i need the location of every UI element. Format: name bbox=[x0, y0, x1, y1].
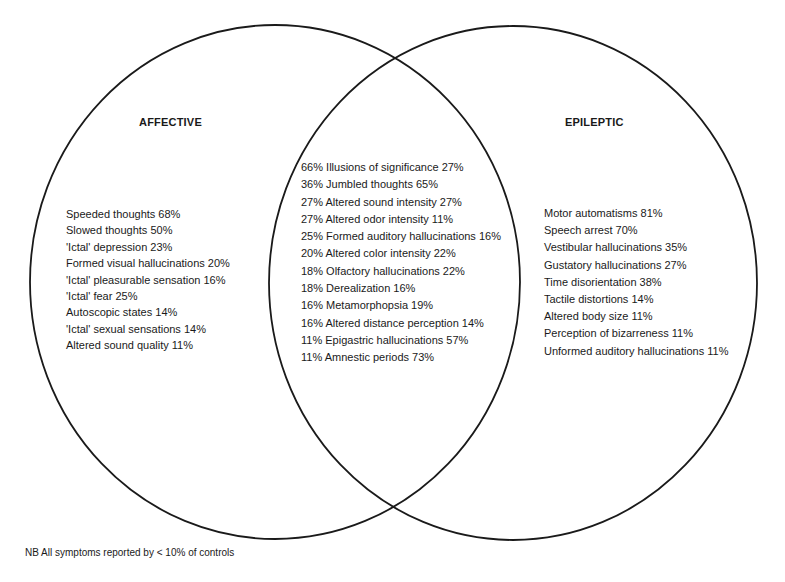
list-item: 27% Altered sound intensity 27% bbox=[301, 194, 501, 211]
list-item: 'Ictal' sexual sensations 14% bbox=[66, 321, 230, 337]
list-item: Gustatory hallucinations 27% bbox=[544, 257, 728, 274]
list-item: 18% Derealization 16% bbox=[301, 280, 501, 297]
list-item: 16% Altered distance perception 14% bbox=[301, 315, 501, 332]
list-item: Unformed auditory hallucinations 11% bbox=[544, 343, 728, 360]
list-item: 11% Amnestic periods 73% bbox=[301, 349, 501, 366]
list-item: Slowed thoughts 50% bbox=[66, 222, 230, 238]
list-item: 'Ictal' depression 23% bbox=[66, 239, 230, 255]
list-item: 20% Altered color intensity 22% bbox=[301, 245, 501, 262]
list-item: 27% Altered odor intensity 11% bbox=[301, 211, 501, 228]
list-item: Motor automatisms 81% bbox=[544, 205, 728, 222]
list-item: 25% Formed auditory hallucinations 16% bbox=[301, 228, 501, 245]
list-item: 'Ictal' fear 25% bbox=[66, 288, 230, 304]
list-item: Altered body size 11% bbox=[544, 308, 728, 325]
list-item: 16% Metamorphopsia 19% bbox=[301, 297, 501, 314]
list-item: 'Ictal' pleasurable sensation 16% bbox=[66, 272, 230, 288]
affective-set-label: AFFECTIVE bbox=[139, 116, 202, 128]
list-item: Altered sound quality 11% bbox=[66, 337, 230, 353]
list-item: Autoscopic states 14% bbox=[66, 304, 230, 320]
list-item: 36% Jumbled thoughts 65% bbox=[301, 176, 501, 193]
list-item: 11% Epigastric hallucinations 57% bbox=[301, 332, 501, 349]
affective-only-list: Speeded thoughts 68% Slowed thoughts 50%… bbox=[66, 206, 230, 354]
epileptic-set-label: EPILEPTIC bbox=[565, 116, 624, 128]
list-item: Tactile distortions 14% bbox=[544, 291, 728, 308]
footnote: NB All symptoms reported by < 10% of con… bbox=[25, 547, 234, 558]
overlap-list: 66% Illusions of significance 27% 36% Ju… bbox=[301, 159, 501, 367]
list-item: Perception of bizarreness 11% bbox=[544, 325, 728, 342]
list-item: Vestibular hallucinations 35% bbox=[544, 239, 728, 256]
epileptic-only-list: Motor automatisms 81% Speech arrest 70% … bbox=[544, 205, 728, 360]
list-item: Speech arrest 70% bbox=[544, 222, 728, 239]
list-item: Speeded thoughts 68% bbox=[66, 206, 230, 222]
list-item: Formed visual hallucinations 20% bbox=[66, 255, 230, 271]
list-item: 66% Illusions of significance 27% bbox=[301, 159, 501, 176]
list-item: 18% Olfactory hallucinations 22% bbox=[301, 263, 501, 280]
list-item: Time disorientation 38% bbox=[544, 274, 728, 291]
